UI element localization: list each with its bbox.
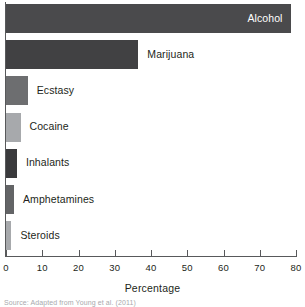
bar-chart-figure: 01020304050607080 AlcoholMarijuanaEcstas… bbox=[0, 0, 305, 307]
x-axis-tick-label: 70 bbox=[254, 262, 265, 273]
x-axis-tick bbox=[115, 250, 116, 257]
bar-inhalants bbox=[6, 149, 17, 178]
x-axis-tick-label: 60 bbox=[218, 262, 229, 273]
x-axis-tick bbox=[151, 250, 152, 257]
bar-label-marijuana: Marijuana bbox=[147, 48, 194, 60]
x-axis-tick-label: 0 bbox=[3, 262, 8, 273]
bar-amphetamines bbox=[6, 185, 14, 214]
bar-label-steroids: Steroids bbox=[20, 229, 59, 241]
bar-ecstasy bbox=[6, 76, 28, 105]
source-caption: Source: Adapted from Young et al. (2011) bbox=[4, 299, 136, 306]
bar-label-cocaine: Cocaine bbox=[30, 120, 69, 132]
x-axis-tick bbox=[6, 250, 7, 257]
bar-label-ecstasy: Ecstasy bbox=[37, 84, 74, 96]
plot-area: 01020304050607080 AlcoholMarijuanaEcstas… bbox=[0, 0, 305, 258]
x-axis-tick bbox=[42, 250, 43, 257]
x-axis-tick-label: 10 bbox=[37, 262, 48, 273]
x-axis-tick-label: 20 bbox=[73, 262, 84, 273]
x-axis-tick-label: 30 bbox=[109, 262, 120, 273]
bar-steroids bbox=[6, 221, 11, 250]
bar-label-amphetamines: Amphetamines bbox=[23, 193, 94, 205]
x-axis-tick bbox=[187, 250, 188, 257]
x-axis-tick bbox=[296, 250, 297, 257]
bar-cocaine bbox=[6, 113, 21, 142]
x-axis-tick-label: 80 bbox=[291, 262, 302, 273]
bar-marijuana bbox=[6, 40, 138, 69]
x-axis-tick bbox=[79, 250, 80, 257]
bar-label-alcohol: Alcohol bbox=[247, 12, 282, 24]
x-axis-tick bbox=[224, 250, 225, 257]
bar-label-inhalants: Inhalants bbox=[26, 156, 70, 168]
x-axis-title: Percentage bbox=[0, 282, 305, 294]
x-axis-tick-label: 40 bbox=[146, 262, 157, 273]
x-axis-tick-label: 50 bbox=[182, 262, 193, 273]
x-axis-tick bbox=[260, 250, 261, 257]
